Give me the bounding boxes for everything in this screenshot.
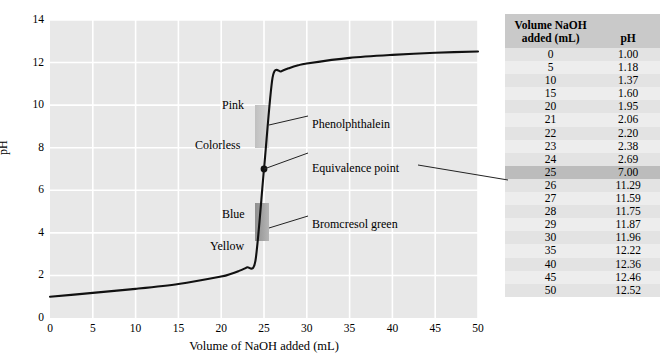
cell-volume: 50 bbox=[505, 284, 596, 297]
cell-ph: 1.18 bbox=[596, 61, 660, 74]
table-row: 201.95 bbox=[505, 100, 660, 113]
x-tick-45: 45 bbox=[415, 322, 455, 334]
cell-volume: 0 bbox=[505, 48, 596, 61]
plot-area: Pink Colorless Blue Yellow Phenolphthale… bbox=[50, 20, 478, 318]
table-row: 242.69 bbox=[505, 153, 660, 166]
titration-curve-figure: Pink Colorless Blue Yellow Phenolphthale… bbox=[0, 0, 671, 359]
x-tick-30: 30 bbox=[287, 322, 327, 334]
table-header-volume-line2: added (mL) bbox=[522, 32, 580, 44]
y-tick-12: 12 bbox=[10, 57, 44, 69]
cell-volume: 21 bbox=[505, 113, 596, 126]
cell-volume: 45 bbox=[505, 271, 596, 284]
cell-volume: 20 bbox=[505, 100, 596, 113]
table-row: 3011.96 bbox=[505, 231, 660, 244]
cell-ph: 1.37 bbox=[596, 74, 660, 87]
cell-volume: 35 bbox=[505, 244, 596, 257]
table-row: 232.38 bbox=[505, 140, 660, 153]
y-tick-10: 10 bbox=[10, 99, 44, 111]
cell-ph: 11.29 bbox=[596, 179, 660, 192]
cell-ph: 2.06 bbox=[596, 113, 660, 126]
cell-volume: 5 bbox=[505, 61, 596, 74]
table-header-ph: pH bbox=[596, 14, 660, 48]
table-row: 5012.52 bbox=[505, 284, 660, 297]
table-row: 2611.29 bbox=[505, 179, 660, 192]
cell-volume: 10 bbox=[505, 74, 596, 87]
cell-ph: 11.87 bbox=[596, 218, 660, 231]
annotation-bromcresol-green: Bromcresol green bbox=[312, 218, 398, 231]
y-axis-title: pH bbox=[0, 140, 11, 155]
x-axis-tick-labels: 05101520253035404550 bbox=[50, 322, 478, 338]
table-header-volume: Volume NaOH added (mL) bbox=[505, 14, 596, 48]
x-tick-10: 10 bbox=[116, 322, 156, 334]
annotation-phenolphthalein: Phenolphthalein bbox=[312, 118, 390, 131]
annotation-yellow: Yellow bbox=[210, 240, 244, 253]
cell-volume: 28 bbox=[505, 205, 596, 218]
table-row: 2711.59 bbox=[505, 192, 660, 205]
y-axis-tick-labels: 02468101214 bbox=[0, 20, 44, 318]
y-tick-4: 4 bbox=[10, 227, 44, 239]
ph-data-table: Volume NaOH added (mL) pH 01.0051.18101.… bbox=[505, 14, 660, 297]
table-row: 257.00 bbox=[505, 166, 660, 179]
cell-ph: 12.22 bbox=[596, 244, 660, 257]
x-tick-40: 40 bbox=[372, 322, 412, 334]
table-row: 222.20 bbox=[505, 127, 660, 140]
y-tick-6: 6 bbox=[10, 184, 44, 196]
y-tick-8: 8 bbox=[10, 142, 44, 154]
titration-curve bbox=[50, 20, 478, 318]
x-tick-0: 0 bbox=[30, 322, 70, 334]
x-tick-50: 50 bbox=[458, 322, 498, 334]
table-row: 212.06 bbox=[505, 113, 660, 126]
annotation-pink: Pink bbox=[222, 99, 244, 112]
cell-ph: 1.60 bbox=[596, 87, 660, 100]
table-row: 2811.75 bbox=[505, 205, 660, 218]
x-axis-title: Volume of NaOH added (mL) bbox=[50, 339, 478, 354]
x-tick-35: 35 bbox=[330, 322, 370, 334]
cell-ph: 2.38 bbox=[596, 140, 660, 153]
x-tick-15: 15 bbox=[158, 322, 198, 334]
x-tick-25: 25 bbox=[244, 322, 284, 334]
y-tick-14: 14 bbox=[10, 14, 44, 26]
table-row: 3512.22 bbox=[505, 244, 660, 257]
cell-ph: 7.00 bbox=[596, 166, 660, 179]
x-tick-20: 20 bbox=[201, 322, 241, 334]
y-tick-2: 2 bbox=[10, 269, 44, 281]
cell-volume: 30 bbox=[505, 231, 596, 244]
cell-ph: 12.52 bbox=[596, 284, 660, 297]
table-row: 51.18 bbox=[505, 61, 660, 74]
annotation-blue: Blue bbox=[222, 208, 245, 221]
ph-data-table-block: Volume NaOH added (mL) pH 01.0051.18101.… bbox=[505, 14, 660, 297]
table-row: 01.00 bbox=[505, 48, 660, 61]
cell-ph: 12.36 bbox=[596, 258, 660, 271]
cell-ph: 12.46 bbox=[596, 271, 660, 284]
cell-ph: 1.95 bbox=[596, 100, 660, 113]
cell-volume: 40 bbox=[505, 258, 596, 271]
cell-volume: 29 bbox=[505, 218, 596, 231]
cell-ph: 11.59 bbox=[596, 192, 660, 205]
table-row: 101.37 bbox=[505, 74, 660, 87]
cell-volume: 26 bbox=[505, 179, 596, 192]
cell-ph: 11.75 bbox=[596, 205, 660, 218]
annotation-colorless: Colorless bbox=[195, 139, 240, 152]
cell-ph: 2.69 bbox=[596, 153, 660, 166]
cell-volume: 23 bbox=[505, 140, 596, 153]
cell-volume: 22 bbox=[505, 127, 596, 140]
table-body: 01.0051.18101.37151.60201.95212.06222.20… bbox=[505, 48, 660, 297]
table-row: 4012.36 bbox=[505, 258, 660, 271]
annotation-equivalence-point: Equivalence point bbox=[312, 162, 399, 175]
table-header: Volume NaOH added (mL) pH bbox=[505, 14, 660, 48]
table-row: 4512.46 bbox=[505, 271, 660, 284]
cell-volume: 25 bbox=[505, 166, 596, 179]
table-row: 2911.87 bbox=[505, 218, 660, 231]
table-header-volume-line1: Volume NaOH bbox=[515, 19, 587, 31]
cell-ph: 11.96 bbox=[596, 231, 660, 244]
cell-volume: 15 bbox=[505, 87, 596, 100]
table-row: 151.60 bbox=[505, 87, 660, 100]
chart-block: Pink Colorless Blue Yellow Phenolphthale… bbox=[0, 0, 490, 359]
cell-volume: 27 bbox=[505, 192, 596, 205]
cell-ph: 1.00 bbox=[596, 48, 660, 61]
cell-volume: 24 bbox=[505, 153, 596, 166]
table-header-row: Volume NaOH added (mL) pH bbox=[505, 14, 660, 48]
x-tick-5: 5 bbox=[73, 322, 113, 334]
cell-ph: 2.20 bbox=[596, 127, 660, 140]
